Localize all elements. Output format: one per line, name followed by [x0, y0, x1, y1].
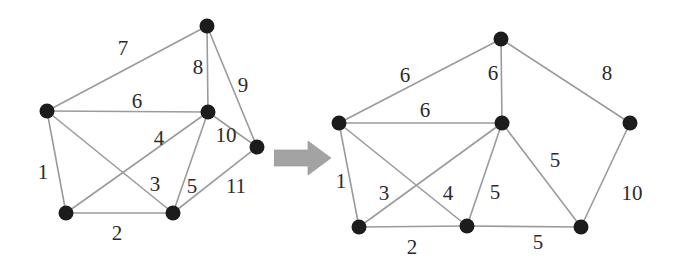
- graph-node: [250, 140, 265, 155]
- graph-edge: [339, 123, 467, 226]
- edge-weight-label: 6: [420, 100, 431, 121]
- edge-weight-label: 10: [216, 125, 237, 146]
- edge-weight-label: 5: [490, 182, 501, 203]
- graph-node: [495, 116, 510, 131]
- edge-weight-label: 5: [187, 176, 198, 197]
- graph-node: [200, 19, 215, 34]
- edge-weight-label: 6: [488, 63, 499, 84]
- edge-weight-label: 8: [193, 57, 204, 78]
- arrow-icon: [274, 141, 331, 175]
- graph-edge: [359, 123, 502, 227]
- graph-node: [460, 219, 475, 234]
- edge-weight-label: 8: [602, 63, 613, 84]
- edge-weight-label: 2: [112, 223, 123, 244]
- graph-canvas: [0, 0, 675, 263]
- graph-edge: [359, 226, 467, 227]
- graph-node: [40, 104, 55, 119]
- edge-weight-label: 4: [154, 128, 165, 149]
- edge-weight-label: 7: [118, 38, 129, 59]
- edge-weight-label: 5: [533, 232, 544, 253]
- edge-weight-label: 9: [238, 75, 249, 96]
- graph-node: [166, 206, 181, 221]
- graph-edge: [581, 123, 630, 227]
- edge-weight-label: 5: [550, 150, 561, 171]
- edge-weight-label: 6: [132, 91, 143, 112]
- edge-weight-label: 3: [379, 183, 390, 204]
- edge-weight-label: 1: [336, 171, 347, 192]
- transformation-arrow: [274, 140, 332, 176]
- graph-edge: [467, 123, 502, 226]
- graph-edge: [207, 26, 208, 112]
- graph-edge: [502, 123, 581, 227]
- graph-edge: [501, 39, 502, 123]
- graph-node: [623, 116, 638, 131]
- graph-edge: [66, 112, 208, 213]
- edge-weight-label: 2: [407, 237, 418, 258]
- edge-weight-label: 10: [622, 183, 643, 204]
- graph-node: [201, 105, 216, 120]
- figure-root: 12345678910111234566685510: [0, 0, 675, 263]
- graph-edge: [47, 111, 208, 112]
- graph-node: [352, 220, 367, 235]
- graph-node: [494, 32, 509, 47]
- graph-node: [574, 220, 589, 235]
- nodes-layer: [40, 19, 638, 235]
- edge-weight-label: 11: [226, 176, 246, 197]
- graph-node: [59, 206, 74, 221]
- edge-weight-label: 1: [38, 162, 49, 183]
- edge-weight-label: 3: [150, 174, 161, 195]
- edge-weight-label: 6: [400, 65, 411, 86]
- graph-edge: [47, 111, 66, 213]
- graph-node: [332, 116, 347, 131]
- graph-edge: [173, 112, 208, 213]
- graph-edge: [467, 226, 581, 227]
- edge-weight-label: 4: [443, 183, 454, 204]
